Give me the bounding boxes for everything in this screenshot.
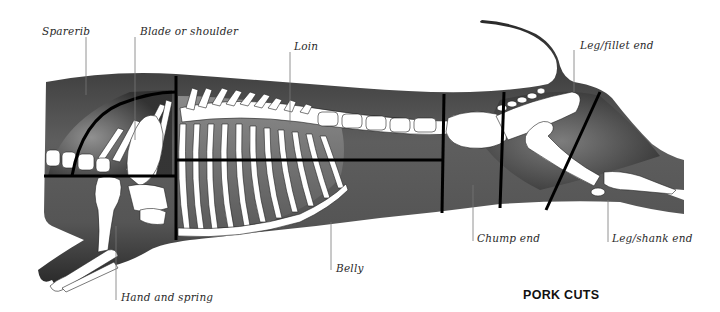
label-hand-and-spring: Hand and spring [121,291,213,303]
label-leg-shank-end: Leg/shank end [612,232,693,244]
diagram-title: PORK CUTS [523,288,599,302]
label-blade-or-shoulder: Blade or shoulder [140,25,238,37]
label-sparerib: Sparerib [42,25,90,37]
label-loin: Loin [294,40,318,52]
loin-chump-line [442,94,444,213]
label-belly: Belly [336,262,364,274]
label-chump-end: Chump end [477,232,540,244]
label-leg-fillet-end: Leg/fillet end [580,39,654,51]
